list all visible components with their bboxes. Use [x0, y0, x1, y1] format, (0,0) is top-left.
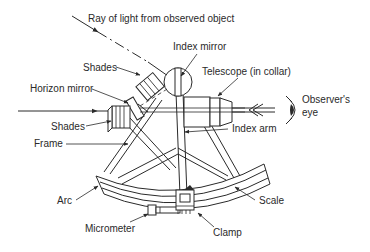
sextant-diagram: Ray of light from observed object Index … — [0, 0, 370, 252]
label-observer-eye-2: eye — [302, 107, 319, 118]
label-shades-top: Shades — [83, 62, 117, 73]
eye-icon — [286, 96, 295, 124]
label-frame: Frame — [34, 138, 63, 149]
label-scale: Scale — [259, 195, 284, 206]
micrometer — [148, 205, 180, 215]
label-index-arm: Index arm — [232, 123, 276, 134]
label-clamp: Clamp — [213, 227, 242, 238]
telescope — [140, 97, 245, 127]
sextant-drawing: Ray of light from observed object Index … — [0, 0, 370, 252]
shades-bottom — [108, 106, 130, 132]
label-observer-eye-1: Observer's — [302, 94, 350, 105]
label-arc: Arc — [57, 195, 72, 206]
clamp — [176, 185, 194, 214]
label-shades-bottom: Shades — [51, 121, 85, 132]
index-mirror — [164, 68, 192, 96]
label-index-mirror: Index mirror — [173, 41, 227, 52]
label-micrometer: Micrometer — [85, 223, 136, 234]
label-horizon-mirror: Horizon mirror — [30, 83, 94, 94]
label-telescope: Telescope (in collar) — [202, 66, 291, 77]
shades-top — [136, 73, 164, 101]
sight-line — [232, 104, 275, 116]
label-ray: Ray of light from observed object — [88, 13, 234, 24]
